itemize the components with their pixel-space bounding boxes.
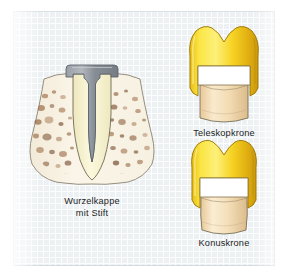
white-spacing-gap bbox=[198, 66, 250, 85]
illustration-conical-crown bbox=[176, 136, 272, 238]
illustration-telescopic-crown bbox=[176, 22, 272, 126]
caption-conical-crown: Konuskrone bbox=[172, 238, 276, 250]
dental-figure: Wurzelkappe mit Stift bbox=[0, 0, 288, 277]
illustration-root-cap-with-post bbox=[16, 44, 168, 194]
caption-root-cap: Wurzelkappe mit Stift bbox=[30, 196, 154, 219]
white-spacing-gap bbox=[200, 178, 248, 197]
